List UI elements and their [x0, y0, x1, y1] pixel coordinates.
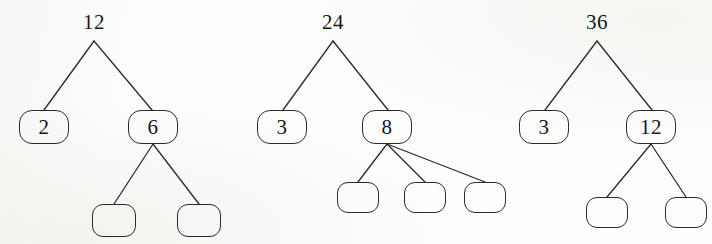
tree-edge — [387, 144, 425, 182]
tree-node-value: 2 — [19, 110, 69, 144]
tree-node-blank[interactable] — [586, 197, 628, 228]
tree-edge — [114, 144, 153, 204]
tree-node-blank[interactable] — [665, 197, 707, 228]
tree-node-value: 8 — [362, 110, 412, 144]
tree-edge — [545, 41, 597, 110]
tree-root-label: 36 — [586, 12, 608, 33]
tree-edge — [358, 144, 387, 182]
tree-node-value: 3 — [257, 110, 307, 144]
tree-root-label: 12 — [83, 12, 105, 33]
tree-node-blank[interactable] — [337, 182, 379, 213]
tree-edge — [387, 144, 485, 182]
tree-node-value: 3 — [519, 110, 569, 144]
tree-node-blank[interactable] — [177, 204, 221, 237]
tree-edge — [94, 41, 152, 110]
tree-edge — [283, 41, 333, 110]
tree-node-blank[interactable] — [464, 182, 506, 213]
tree-node-blank[interactable] — [404, 182, 446, 213]
tree-edge — [607, 144, 651, 197]
tree-node-blank[interactable] — [92, 204, 136, 237]
tree-node-value: 6 — [128, 110, 178, 144]
tree-edge — [333, 41, 388, 110]
tree-root-label: 24 — [322, 12, 344, 33]
tree-edge — [44, 41, 94, 110]
tree-node-value: 12 — [626, 110, 676, 144]
tree-edge — [597, 41, 652, 110]
tree-edge — [153, 144, 199, 204]
tree-edge — [651, 144, 686, 197]
factor-trees-figure: 1226243836312 — [0, 0, 712, 244]
